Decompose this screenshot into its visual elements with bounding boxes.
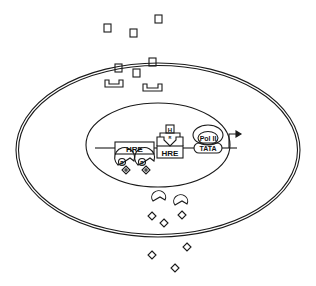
pol-ii-label: Pol II: [200, 135, 217, 142]
extracellular-hormones: [104, 15, 162, 37]
cytoplasmic-receptor-shapes: [152, 191, 188, 205]
receptor-top-label: R: [169, 135, 172, 140]
hre-right-label: HRE: [162, 149, 180, 158]
cytoplasmic-diamonds: [148, 211, 186, 227]
hormone-bound-label: H: [168, 127, 172, 133]
transcription-start-arrow: [229, 131, 241, 148]
extracellular-diamonds: [148, 243, 191, 259]
cytoplasmic-receptors: [105, 80, 162, 91]
diagram-svg: HRE HRE Pol II TATA H R R R: [0, 0, 316, 286]
tata-label: TATA: [199, 145, 216, 152]
hre-left-label: HRE: [126, 145, 144, 154]
receptor-a-label: R: [120, 160, 124, 166]
diagram-canvas: HRE HRE Pol II TATA H R R R: [0, 0, 316, 286]
cytoplasmic-hormones: [115, 58, 156, 77]
extracellular-diamond-3: [171, 264, 179, 272]
cell-membrane: [16, 63, 300, 237]
receptor-b-label: R: [140, 160, 144, 166]
